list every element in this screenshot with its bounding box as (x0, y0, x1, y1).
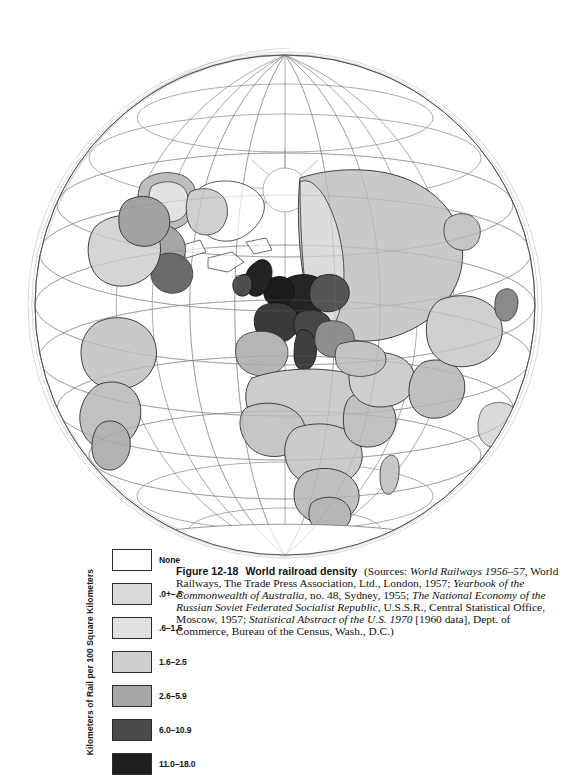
region-spain-portugal (236, 331, 288, 375)
region-argentina (92, 421, 130, 470)
region-south-america-north (81, 318, 156, 390)
region-australia (478, 402, 521, 448)
region-china-east-asia (426, 296, 502, 367)
legend-label: 1.6–2.5 (159, 657, 187, 667)
legend-row[interactable]: 11.0–18.0 (112, 752, 195, 776)
legend-swatch-none (112, 549, 152, 571)
legend-row[interactable]: .0+–.5 (112, 582, 182, 606)
sources-prefix: (Sources: (364, 565, 407, 577)
region-italy (294, 330, 317, 371)
legend-label: 2.6–5.9 (159, 691, 187, 701)
legend-swatch-06-15 (112, 617, 152, 639)
figure-title: World railroad density (245, 565, 357, 577)
legend-label: None (159, 555, 180, 565)
legend-axis-label: Kilometers of Rail per 100 Square Kilome… (78, 548, 102, 776)
region-finland-baltic (186, 189, 227, 235)
figure-number: Figure 12-18 (176, 565, 238, 577)
source-item: Statistical Abstract of the U.S. 1970 (249, 613, 412, 625)
figure-caption: Figure 12-18World railroad density(Sourc… (176, 566, 561, 637)
legend-swatch-60-109 (112, 719, 152, 741)
legend-row[interactable]: 1.6–2.5 (112, 650, 187, 674)
legend-swatch-16-25 (112, 651, 152, 673)
legend-row[interactable]: 6.0–10.9 (112, 718, 191, 742)
legend-label: 6.0–10.9 (159, 725, 191, 735)
legend-label: 11.0–18.0 (159, 759, 195, 769)
world-map-globe (0, 0, 565, 560)
source-item: World Railways 1956–57, (410, 565, 528, 577)
region-kamchatka (444, 214, 480, 251)
legend-row[interactable]: None (112, 548, 180, 572)
region-poland-czechoslovakia (310, 274, 350, 311)
legend-swatch-26-59 (112, 685, 152, 707)
region-canada-east (119, 196, 170, 246)
legend-swatch-110-180 (112, 753, 152, 775)
source-item: no. 48, Sydney, 1955; (307, 589, 412, 601)
globe-svg (0, 0, 565, 560)
legend-swatch-0-0-5 (112, 583, 152, 605)
legend-axis-label-text: Kilometers of Rail per 100 Square Kilome… (85, 569, 95, 755)
legend-row[interactable]: 2.6–5.9 (112, 684, 187, 708)
legend-row[interactable]: .6–1.5 (112, 616, 182, 640)
